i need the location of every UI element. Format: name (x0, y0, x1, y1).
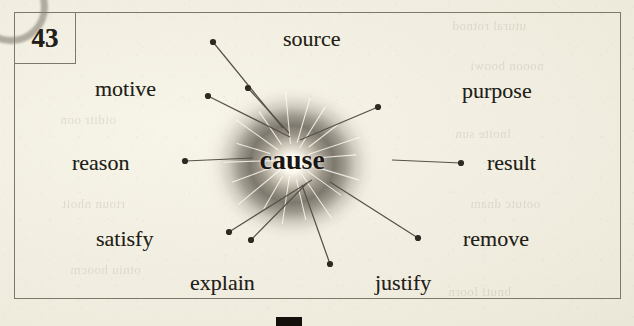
label-satisfy: satisfy (96, 228, 153, 250)
leader-dot-source (210, 39, 216, 45)
leader-dot-result (458, 160, 464, 166)
label-justify: justify (375, 272, 431, 294)
scanned-page: utural rotnodnooon boowioiditr oonlnoite… (0, 0, 634, 326)
leader-dot-reason (182, 158, 188, 164)
leader-line-purpose (300, 107, 378, 140)
label-explain: explain (190, 272, 255, 294)
leader-line-justify (302, 185, 330, 264)
leader-dot-extra-left (226, 229, 232, 235)
label-reason: reason (72, 152, 129, 174)
leader-line-remove (330, 182, 418, 238)
leader-dot-satisfy (205, 93, 211, 99)
leader-dot-purpose (375, 104, 381, 110)
label-remove: remove (463, 228, 529, 250)
register-mark (276, 317, 302, 326)
label-result: result (487, 152, 536, 174)
leader-dot-justify (327, 261, 333, 267)
leader-dot-explain (248, 237, 254, 243)
label-source: source (283, 28, 340, 50)
leader-line-reason (185, 158, 253, 161)
center-word: cause (260, 144, 325, 176)
leader-dot-motive (245, 85, 251, 91)
diagram-stage: sourcemotivepurposereasonresultsatisfyex… (0, 0, 634, 326)
leader-line-explain (251, 183, 307, 240)
leader-line-result (392, 160, 461, 163)
leader-line-extra-left (229, 180, 312, 232)
label-motive: motive (95, 78, 156, 100)
label-purpose: purpose (462, 80, 532, 102)
leader-dot-remove (415, 235, 421, 241)
leader-line-satisfy (208, 96, 290, 137)
